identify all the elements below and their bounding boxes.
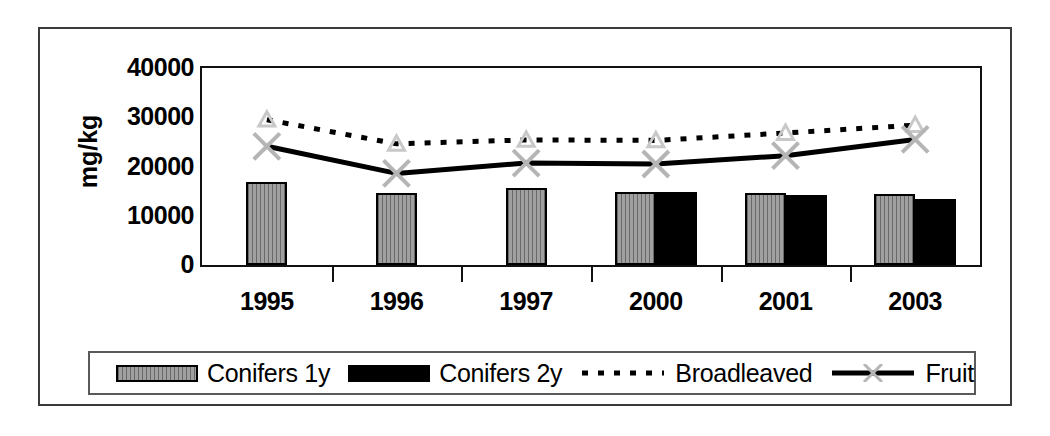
bar-conifers-1y-1997 bbox=[506, 188, 547, 265]
grey-hatched-bar-icon bbox=[116, 365, 198, 382]
figure-frame: mg/kg 010000200003000040000 199519961997… bbox=[38, 27, 1012, 406]
black-bar-icon bbox=[348, 365, 430, 382]
bar-conifers-1y-2003 bbox=[874, 194, 915, 265]
legend-label: Conifers 2y bbox=[439, 359, 562, 388]
legend-entry-conifers-1y: Conifers 1y bbox=[116, 359, 330, 388]
y-tick-label: 40000 bbox=[82, 55, 194, 80]
x-tick-mark bbox=[850, 267, 852, 282]
x-tick-label-1997: 1997 bbox=[461, 287, 591, 316]
dotted-line-icon bbox=[580, 364, 666, 382]
legend-entry-conifers-2y: Conifers 2y bbox=[348, 359, 562, 388]
x-tick-label-1996: 1996 bbox=[332, 287, 462, 316]
x-tick-mark bbox=[721, 267, 723, 282]
y-tick-label: 20000 bbox=[82, 154, 194, 179]
x-tick-label-2000: 2000 bbox=[591, 287, 721, 316]
legend-label: Fruit bbox=[925, 359, 974, 388]
x-tick-label-2003: 2003 bbox=[850, 287, 980, 316]
bar-conifers-2y-2001 bbox=[786, 195, 827, 265]
legend-label: Conifers 1y bbox=[207, 359, 330, 388]
y-tick-label: 0 bbox=[82, 252, 194, 277]
chart-legend: Conifers 1yConifers 2yBroadleavedFruit bbox=[88, 351, 976, 395]
bar-conifers-2y-2000 bbox=[656, 192, 697, 265]
legend-label: Broadleaved bbox=[675, 359, 812, 388]
bar-conifers-1y-1996 bbox=[376, 193, 417, 265]
solid-line-x-marker-icon bbox=[830, 364, 916, 382]
bars-layer bbox=[202, 68, 980, 265]
legend-entry-broadleaved: Broadleaved bbox=[580, 359, 812, 388]
bar-conifers-1y-1995 bbox=[246, 182, 287, 265]
y-tick-label: 30000 bbox=[82, 104, 194, 129]
x-tick-label-2001: 2001 bbox=[721, 287, 851, 316]
x-tick-label-1995: 1995 bbox=[202, 287, 332, 316]
legend-entry-fruit: Fruit bbox=[830, 359, 974, 388]
x-tick-mark bbox=[332, 267, 334, 282]
x-tick-mark bbox=[591, 267, 593, 282]
bar-conifers-2y-2003 bbox=[915, 199, 956, 265]
x-tick-mark bbox=[461, 267, 463, 282]
bar-conifers-1y-2000 bbox=[615, 192, 656, 265]
bar-conifers-1y-2001 bbox=[745, 193, 786, 265]
y-tick-label: 10000 bbox=[82, 203, 194, 228]
chart-area: mg/kg 010000200003000040000 199519961997… bbox=[40, 29, 1014, 408]
